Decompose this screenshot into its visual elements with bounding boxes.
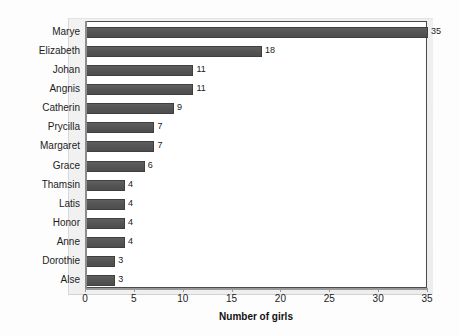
x-tick-mark [85,289,86,292]
category-label-margaret: Margaret [2,140,80,151]
bar-value-label: 9 [177,102,182,113]
bar-rect [86,199,125,210]
bar-rect [86,27,428,38]
x-tick-label-25: 25 [324,293,335,304]
x-tick-mark [232,289,233,292]
x-tick-mark [378,289,379,292]
category-label-prycilla: Prycilla [2,121,80,132]
x-tick-mark [280,289,281,292]
bar-rect [86,103,174,114]
x-tick-mark [134,289,135,292]
bar-value-label: 7 [157,121,162,132]
bar-rect [86,141,154,152]
bar-rect [86,84,193,95]
bar-value-label: 4 [128,198,133,209]
x-tick-mark [427,289,428,292]
y-axis-category-labels: MaryeElizabethJohanAngnisCatherinPrycill… [0,21,80,288]
x-tick-label-15: 15 [226,293,237,304]
category-label-johan: Johan [2,64,80,75]
bar-rect [86,161,145,172]
x-axis-title: Number of girls [85,311,427,322]
category-label-angnis: Angnis [2,83,80,94]
category-label-alse: Alse [2,274,80,285]
bar-value-label: 4 [128,179,133,190]
x-tick-label-20: 20 [275,293,286,304]
plot-area [85,21,427,288]
bar-value-label: 3 [118,255,123,266]
bar-rect [86,122,154,133]
category-label-marye: Marye [2,26,80,37]
category-label-catherin: Catherin [2,102,80,113]
bars-layer [86,22,426,287]
bar-value-label: 4 [128,236,133,247]
category-label-honor: Honor [2,217,80,228]
bar-value-label: 35 [431,26,441,37]
y-axis-line [85,21,87,289]
x-tick-label-30: 30 [373,293,384,304]
bar-value-label: 7 [157,140,162,151]
bar-value-label: 4 [128,217,133,228]
category-label-grace: Grace [2,160,80,171]
bar-value-label: 18 [265,45,275,56]
x-axis-line [85,288,428,290]
bar-chart: MaryeElizabethJohanAngnisCatherinPrycill… [0,0,459,336]
category-label-anne: Anne [2,236,80,247]
bar-rect [86,180,125,191]
bar-rect [86,218,125,229]
bar-value-label: 6 [148,160,153,171]
bar-value-label: 3 [118,274,123,285]
bar-rect [86,237,125,248]
bar-rect [86,256,115,267]
bar-rect [86,275,115,286]
x-tick-label-10: 10 [177,293,188,304]
bar-rect [86,65,193,76]
bar-value-label: 11 [196,64,205,75]
bar-rect [86,46,262,57]
category-label-dorothie: Dorothie [2,255,80,266]
category-label-elizabeth: Elizabeth [2,45,80,56]
bar-value-label: 11 [196,83,205,94]
x-tick-mark [183,289,184,292]
x-tick-label-0: 0 [82,293,88,304]
x-tick-label-35: 35 [421,293,432,304]
x-tick-mark [329,289,330,292]
category-label-thamsin: Thamsin [2,179,80,190]
x-tick-label-5: 5 [131,293,137,304]
category-label-latis: Latis [2,198,80,209]
